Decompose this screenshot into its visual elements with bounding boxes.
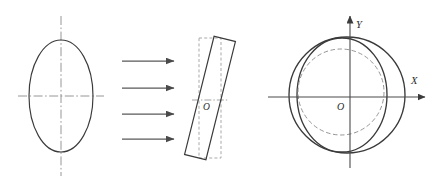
technical-figure: O X Y O [0,0,438,178]
middle-origin-label: O [203,102,210,112]
right-origin-label: O [337,101,344,112]
x-axis-label: X [410,75,418,86]
figure-canvas: O X Y O [0,0,438,178]
